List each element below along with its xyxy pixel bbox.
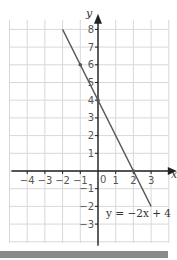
y-tick-label: −2 [79, 201, 94, 212]
line-graph: −4−3−2−1123−3−2−112345678 x y 0 y = −2x … [0, 0, 177, 250]
origin-label: 0 [100, 174, 106, 185]
y-tick-label: 8 [88, 24, 94, 35]
y-tick-label: −1 [79, 183, 94, 194]
y-tick-label: 4 [88, 95, 94, 106]
x-tick-label: 1 [113, 175, 119, 186]
y-tick-label: 6 [88, 59, 94, 70]
bottom-divider-bar [0, 251, 168, 258]
data-point-marker [96, 98, 100, 102]
equation-label: y = −2x + 4 [105, 207, 171, 219]
x-axis-label: x [171, 168, 177, 181]
y-axis-label: y [85, 7, 93, 20]
data-point-marker [132, 169, 136, 173]
x-tick-label: 3 [148, 175, 154, 186]
y-tick-label: 3 [88, 112, 94, 123]
x-tick-label: −2 [55, 175, 70, 186]
x-tick-label: −4 [20, 175, 35, 186]
y-tick-label: 1 [88, 148, 94, 159]
tick-labels: −4−3−2−1123−3−2−112345678 [20, 24, 154, 230]
data-point-marker [79, 63, 83, 67]
y-axis-arrow-icon [94, 14, 102, 24]
x-tick-label: −3 [38, 175, 53, 186]
y-tick-label: 7 [88, 42, 94, 53]
y-tick-label: −3 [79, 219, 94, 230]
y-tick-label: 2 [88, 130, 94, 141]
